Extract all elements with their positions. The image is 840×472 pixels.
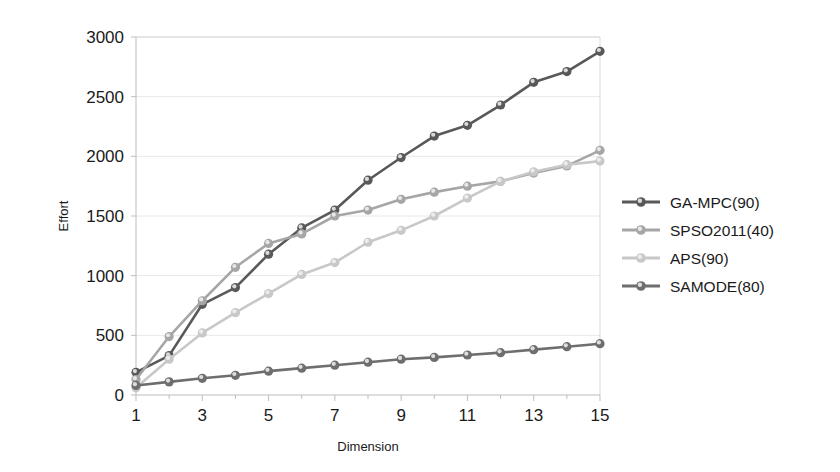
x-tick-label: 15 (591, 406, 610, 425)
legend-marker-highlight (638, 255, 642, 259)
data-point-highlight (166, 378, 170, 382)
legend-item: APS(90) (622, 250, 729, 267)
x-axis-tick-labels: 13579111315 (131, 406, 609, 425)
data-point-highlight (564, 343, 568, 347)
data-point-highlight (431, 213, 435, 217)
data-point-highlight (166, 333, 170, 337)
data-point-highlight (464, 195, 468, 199)
data-point-highlight (398, 196, 402, 200)
data-series-group (131, 47, 604, 393)
legend-label: SPSO2011(40) (670, 222, 774, 239)
data-point-highlight (365, 177, 369, 181)
y-tick-label: 3000 (86, 28, 124, 47)
legend-item: SPSO2011(40) (622, 222, 774, 239)
data-point-highlight (232, 264, 236, 268)
data-point-highlight (597, 147, 601, 151)
data-point-highlight (497, 349, 501, 353)
chart-legend: GA-MPC(90)SPSO2011(40)APS(90)SAMODE(80) (622, 194, 774, 295)
data-point-highlight (166, 356, 170, 360)
series-line (136, 161, 600, 388)
data-point-highlight (265, 251, 269, 255)
x-tick-label: 3 (198, 406, 207, 425)
data-point-highlight (199, 297, 203, 301)
data-point-highlight (232, 284, 236, 288)
data-point-highlight (531, 168, 535, 172)
x-tick-label: 13 (524, 406, 543, 425)
x-tick-label: 11 (459, 406, 477, 425)
data-point-highlight (265, 240, 269, 244)
data-point-highlight (365, 207, 369, 211)
y-axis-tick-marks (131, 37, 136, 395)
legend-label: APS(90) (670, 250, 729, 267)
data-point-highlight (597, 48, 601, 52)
x-tick-label: 9 (396, 406, 405, 425)
data-point-highlight (398, 356, 402, 360)
y-tick-label: 500 (96, 326, 124, 345)
series-4 (131, 339, 604, 390)
data-point-highlight (299, 225, 303, 229)
data-point-highlight (398, 227, 402, 231)
data-point-highlight (133, 382, 137, 386)
data-point-highlight (464, 183, 468, 187)
y-tick-label: 2000 (86, 147, 124, 166)
data-point-highlight (497, 178, 501, 182)
data-point-highlight (464, 122, 468, 126)
data-point-highlight (265, 290, 269, 294)
data-point-highlight (597, 158, 601, 162)
data-point-highlight (564, 161, 568, 165)
data-point-highlight (431, 133, 435, 137)
data-point-highlight (133, 376, 137, 380)
data-point-highlight (464, 352, 468, 356)
data-point-highlight (332, 207, 336, 211)
x-tick-label: 7 (330, 406, 339, 425)
x-axis-title: Dimension (337, 439, 398, 454)
data-point-highlight (597, 340, 601, 344)
y-axis-tick-labels: 050010001500200025003000 (86, 28, 124, 405)
legend-marker-highlight (638, 199, 642, 203)
legend-marker-highlight (638, 227, 642, 231)
legend-marker-highlight (638, 283, 642, 287)
data-point-highlight (531, 346, 535, 350)
data-point-highlight (265, 368, 269, 372)
chart-figure: 050010001500200025003000 13579111315 Eff… (0, 0, 840, 472)
data-point-highlight (133, 369, 137, 373)
data-point-highlight (332, 362, 336, 366)
line-chart: 050010001500200025003000 13579111315 Eff… (0, 0, 840, 472)
y-axis-title: Effort (56, 200, 71, 231)
y-tick-label: 2500 (86, 88, 124, 107)
data-point-highlight (299, 231, 303, 235)
data-point-highlight (431, 354, 435, 358)
y-tick-label: 1500 (86, 207, 124, 226)
series-3 (131, 157, 604, 393)
data-point-highlight (232, 309, 236, 313)
data-point-highlight (199, 375, 203, 379)
legend-item: SAMODE(80) (622, 278, 765, 295)
legend-item: GA-MPC(90) (622, 194, 760, 211)
legend-label: SAMODE(80) (670, 278, 765, 295)
data-point-highlight (232, 372, 236, 376)
x-tick-label: 5 (264, 406, 273, 425)
data-point-highlight (564, 68, 568, 72)
y-tick-label: 0 (115, 386, 124, 405)
data-point-highlight (332, 213, 336, 217)
y-tick-label: 1000 (86, 267, 124, 286)
data-point-highlight (332, 259, 336, 263)
data-point-highlight (497, 102, 501, 106)
data-point-highlight (365, 239, 369, 243)
data-point-highlight (398, 154, 402, 158)
data-point-highlight (199, 330, 203, 334)
x-tick-label: 1 (131, 406, 140, 425)
data-point-highlight (431, 189, 435, 193)
data-point-highlight (531, 79, 535, 83)
data-point-highlight (299, 271, 303, 275)
x-axis-tick-marks (136, 395, 600, 401)
data-point-highlight (365, 359, 369, 363)
data-point-highlight (299, 365, 303, 369)
legend-label: GA-MPC(90) (670, 194, 760, 211)
